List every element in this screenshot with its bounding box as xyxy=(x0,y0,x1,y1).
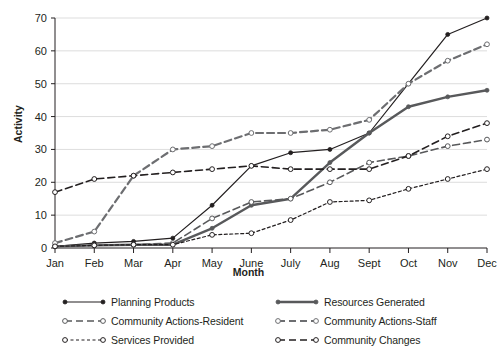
data-point xyxy=(171,236,175,240)
data-point xyxy=(249,200,254,205)
y-tick-label: 20 xyxy=(35,176,47,188)
legend-line-swatch xyxy=(275,334,319,346)
legend-label: Resources Generated xyxy=(324,296,425,308)
legend-item[interactable]: Services Provided xyxy=(62,331,269,350)
data-point xyxy=(328,161,332,165)
data-point xyxy=(289,151,293,155)
chart-legend: Planning ProductsResources GeneratedComm… xyxy=(62,292,482,350)
legend-line-swatch xyxy=(275,315,319,327)
legend-line-swatch xyxy=(62,334,106,346)
legend-line-swatch xyxy=(62,296,106,308)
data-point xyxy=(210,216,215,221)
legend-line-swatch xyxy=(62,315,106,327)
y-tick-label: 60 xyxy=(35,45,47,57)
data-point xyxy=(367,167,372,172)
chart-container: Activity 010203040506070JanFebMarAprMayJ… xyxy=(0,0,497,353)
x-axis-title: Month xyxy=(0,266,497,278)
legend-item[interactable]: Community Actions-Resident xyxy=(62,311,269,330)
legend-item[interactable]: Community Actions-Staff xyxy=(275,311,482,330)
data-point xyxy=(249,131,254,136)
data-point xyxy=(170,242,175,247)
data-point xyxy=(445,177,450,182)
data-point xyxy=(288,196,293,201)
legend-item[interactable]: Resources Generated xyxy=(275,292,482,311)
legend-line-swatch xyxy=(275,296,319,308)
data-point xyxy=(328,180,333,185)
data-point xyxy=(210,167,215,172)
legend-label: Community Actions-Staff xyxy=(324,315,436,327)
y-tick-label: 50 xyxy=(35,78,47,90)
data-point xyxy=(485,42,490,47)
series-line xyxy=(55,140,487,247)
data-point xyxy=(367,117,372,122)
series-line xyxy=(55,90,487,246)
legend-label: Services Provided xyxy=(111,334,194,346)
series-line xyxy=(55,169,487,246)
y-tick-label: 30 xyxy=(35,143,47,155)
series-line xyxy=(55,44,487,243)
data-point xyxy=(170,170,175,175)
data-point xyxy=(445,58,450,63)
line-chart-plot: 010203040506070JanFebMarAprMayJuneJulyAu… xyxy=(0,0,497,290)
data-point xyxy=(406,105,410,109)
data-point xyxy=(446,95,450,99)
data-point xyxy=(249,231,254,236)
y-tick-label: 10 xyxy=(35,209,47,221)
data-point xyxy=(131,173,136,178)
legend-item[interactable]: Community Changes xyxy=(275,331,482,350)
data-point xyxy=(53,190,58,195)
y-tick-label: 0 xyxy=(41,242,47,254)
legend-label: Planning Products xyxy=(111,296,195,308)
data-point xyxy=(485,121,490,126)
legend-label: Community Changes xyxy=(324,334,420,346)
data-point xyxy=(485,88,489,92)
data-point xyxy=(367,160,372,165)
data-point xyxy=(328,127,333,132)
data-point xyxy=(406,186,411,191)
data-point xyxy=(328,147,332,151)
data-point xyxy=(485,16,489,20)
data-point xyxy=(131,242,136,247)
data-point xyxy=(92,243,97,248)
data-point xyxy=(92,229,97,234)
data-point xyxy=(485,137,490,142)
data-point xyxy=(328,167,333,172)
data-point xyxy=(288,131,293,136)
data-point xyxy=(445,144,450,149)
data-point xyxy=(288,167,293,172)
data-point xyxy=(210,232,215,237)
legend-item[interactable]: Planning Products xyxy=(62,292,269,311)
data-point xyxy=(406,154,411,159)
data-point xyxy=(249,163,254,168)
y-tick-label: 70 xyxy=(35,12,47,24)
data-point xyxy=(367,198,372,203)
data-point xyxy=(210,226,214,230)
data-point xyxy=(53,244,58,249)
data-point xyxy=(288,218,293,223)
data-point xyxy=(92,177,97,182)
data-point xyxy=(170,147,175,152)
data-point xyxy=(210,144,215,149)
data-point xyxy=(210,203,214,207)
data-point xyxy=(367,131,371,135)
data-point xyxy=(328,200,333,205)
y-tick-label: 40 xyxy=(35,111,47,123)
data-point xyxy=(406,81,411,86)
data-point xyxy=(446,32,450,36)
data-point xyxy=(485,167,490,172)
data-point xyxy=(445,134,450,139)
legend-label: Community Actions-Resident xyxy=(111,315,243,327)
